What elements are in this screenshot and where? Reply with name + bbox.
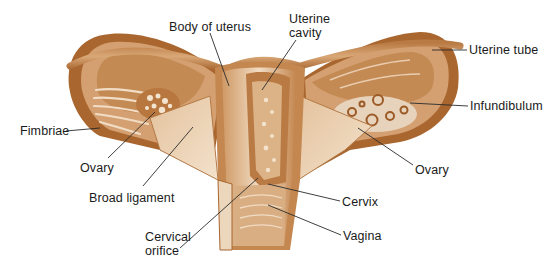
label-uterine-cavity-line2: cavity	[289, 26, 322, 40]
label-uterine-cavity-line1: Uterine	[289, 12, 330, 26]
label-broad-ligament: Broad ligament	[89, 191, 174, 205]
label-fimbriae: Fimbriae	[20, 124, 69, 138]
label-infundibulum: Infundibulum	[470, 99, 543, 113]
label-body-of-uterus: Body of uterus	[169, 20, 251, 34]
uterus-body	[215, 62, 305, 250]
label-uterine-tube: Uterine tube	[469, 43, 538, 57]
label-cervical-orifice-line2: orifice	[145, 244, 179, 258]
label-cervix: Cervix	[342, 195, 378, 209]
label-ovary-left: Ovary	[80, 161, 114, 175]
uterus-diagram	[0, 0, 548, 261]
label-ovary-right: Ovary	[415, 163, 449, 177]
label-vagina: Vagina	[343, 229, 382, 243]
label-cervical-orifice-line1: Cervical	[145, 230, 191, 244]
